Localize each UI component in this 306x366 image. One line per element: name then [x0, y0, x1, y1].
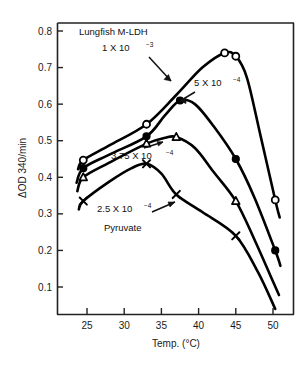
annotation-conc-4-exponent: −4: [144, 202, 152, 209]
y-tick-label: 0.4: [38, 172, 52, 183]
annotation-conc-3-exponent: −4: [166, 149, 174, 156]
annotation-conc-2-text: 5 X 10: [194, 77, 221, 88]
y-tick-label: 0.3: [38, 208, 52, 219]
chart-title: Lungfish M-LDH: [79, 26, 148, 37]
y-tick-label: 0.2: [38, 245, 52, 256]
figure-background: [0, 0, 306, 366]
annotation-conc-4-text: 2.5 X 10: [97, 203, 132, 214]
x-axis-label: Temp. (°C): [152, 338, 200, 349]
annotation-conc-3-text: 3.75 X 10: [111, 150, 152, 161]
data-point-marker-open-circle: [232, 53, 239, 60]
y-tick-label: 0.6: [38, 99, 52, 110]
x-tick-label: 50: [267, 320, 279, 331]
y-tick-label: 0.7: [38, 62, 52, 73]
x-tick-label: 25: [81, 320, 93, 331]
x-tick-label: 30: [119, 320, 131, 331]
figure-container: 0.10.20.30.40.50.60.70.8 253035404550 ΔO…: [0, 0, 306, 366]
data-point-marker-open-circle: [272, 196, 279, 203]
data-point-marker-open-circle: [143, 121, 150, 128]
y-axis-label: ΔOD 340/min: [17, 138, 28, 198]
y-tick-label: 0.5: [38, 135, 52, 146]
x-tick-label: 40: [193, 320, 205, 331]
chart-svg: 0.10.20.30.40.50.60.70.8 253035404550 ΔO…: [0, 0, 306, 366]
data-point-marker-filled-circle: [232, 156, 239, 163]
y-tick-label: 0.1: [38, 282, 52, 293]
pyruvate-label: Pyruvate: [104, 222, 142, 233]
annotation-conc-2-exponent: −4: [233, 76, 241, 83]
data-point-marker-filled-circle: [272, 247, 279, 254]
annotation-conc-1-exponent: −3: [146, 41, 154, 48]
y-tick-label: 0.8: [38, 26, 52, 37]
data-point-marker-filled-circle: [80, 165, 87, 172]
x-tick-label: 35: [156, 320, 168, 331]
x-tick-label: 45: [230, 320, 242, 331]
data-point-marker-open-circle: [221, 49, 228, 56]
data-point-marker-open-circle: [80, 157, 87, 164]
annotation-conc-1-text: 1 X 10: [102, 42, 129, 53]
